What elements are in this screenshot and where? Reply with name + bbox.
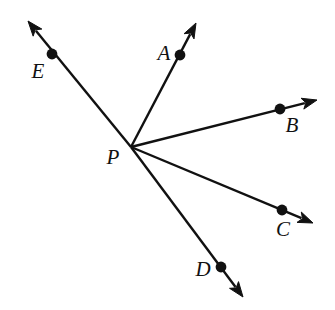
point-label-d: D	[195, 259, 210, 280]
ray-PE-line	[36, 31, 131, 147]
point-dot-a	[175, 50, 186, 61]
point-dot-e	[47, 49, 58, 60]
rays-group	[28, 21, 317, 297]
points-group	[47, 49, 288, 273]
point-label-b: B	[286, 115, 299, 136]
geometry-diagram: EABCDP	[0, 0, 335, 310]
ray-PD-arrowhead-icon	[230, 282, 243, 297]
point-dot-d	[216, 262, 227, 273]
point-label-p: P	[107, 147, 120, 168]
point-dot-c	[277, 205, 288, 216]
point-label-a: A	[158, 43, 171, 64]
point-dot-b	[275, 104, 286, 115]
point-label-e: E	[32, 61, 45, 82]
point-label-c: C	[276, 219, 290, 240]
